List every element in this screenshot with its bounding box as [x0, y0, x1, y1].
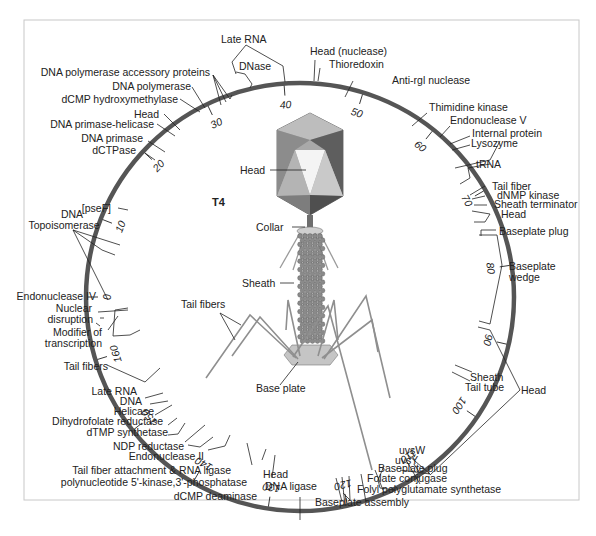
gene-label: DNA polymerase accessory proteins [41, 66, 210, 78]
sheath-bead [305, 313, 310, 318]
sheath-bead [315, 330, 320, 335]
phage-head [277, 113, 343, 215]
sheath-bead [320, 246, 325, 251]
sheath-bead [308, 234, 313, 239]
sheath-bead [308, 301, 313, 306]
sheath-bead [313, 250, 318, 255]
sheath-bead [305, 246, 310, 251]
sheath-bead [305, 263, 310, 268]
sheath-bead [315, 288, 320, 293]
sheath-bead [313, 301, 318, 306]
phage-sheath [298, 234, 325, 344]
sheath-bead [315, 271, 320, 276]
sheath-bead [300, 246, 305, 251]
sheath-bead [320, 280, 325, 285]
sheath-bead [310, 263, 315, 268]
sheath-bead [300, 280, 305, 285]
sheath-bead [318, 309, 323, 314]
sheath-bead [308, 292, 313, 297]
sheath-bead [300, 297, 305, 302]
sheath-bead [315, 263, 320, 268]
gene-label: transcription [45, 337, 102, 349]
sheath-bead [310, 288, 315, 293]
sheath-bead [305, 271, 310, 276]
tick-mark [284, 86, 285, 96]
gene-label: Topoisomerase [28, 219, 99, 231]
gene-label: Endonuclease II [129, 450, 204, 462]
sheath-bead [300, 322, 305, 327]
sheath-bead [303, 326, 308, 331]
sheath-bead [320, 263, 325, 268]
sheath-bead [303, 301, 308, 306]
sheath-bead [315, 246, 320, 251]
sheath-bead [315, 339, 320, 344]
sheath-bead [298, 318, 303, 323]
sheath-bead [305, 288, 310, 293]
sheath-bead [310, 246, 315, 251]
sheath-bead [300, 271, 305, 276]
sheath-bead [313, 242, 318, 247]
sheath-bead [298, 267, 303, 272]
sheath-bead [318, 276, 323, 281]
tick-label: 10 [112, 219, 127, 234]
gene-label: Late RNA [221, 33, 267, 45]
gene-label: DNA ligase [265, 480, 317, 492]
sheath-bead [313, 309, 318, 314]
sheath-bead [318, 334, 323, 339]
sheath-bead [305, 280, 310, 285]
tick-mark [497, 342, 507, 344]
phage-label-base-plate: Base plate [256, 382, 306, 394]
tick-label: 50 [350, 105, 365, 120]
sheath-bead [320, 238, 325, 243]
sheath-bead [305, 322, 310, 327]
sheath-bead [305, 255, 310, 260]
sheath-bead [315, 238, 320, 243]
gene-label: Tail fiber attachment & RNA ligase [72, 464, 231, 476]
sheath-bead [318, 292, 323, 297]
gene-label: dTMP synthetase [86, 426, 168, 438]
sheath-bead [318, 284, 323, 289]
tick-mark [103, 220, 112, 224]
sheath-bead [318, 259, 323, 264]
gene-label: dCMP deaminase [174, 490, 257, 502]
sheath-bead [303, 318, 308, 323]
tick-label: 30 [208, 115, 224, 131]
sheath-bead [308, 242, 313, 247]
sheath-bead [298, 284, 303, 289]
gene-label: Head [521, 384, 546, 396]
gene-label: Endonuclease V [450, 114, 526, 126]
gene-label: Tail fibers [64, 360, 108, 372]
sheath-bead [298, 242, 303, 247]
sheath-bead [313, 334, 318, 339]
sheath-bead [300, 238, 305, 243]
sheath-bead [320, 271, 325, 276]
tick-label: 100 [450, 395, 470, 416]
sheath-bead [313, 259, 318, 264]
sheath-bead [300, 288, 305, 293]
gene-label: disruption [47, 313, 93, 325]
gene-label: Tail fiber [492, 180, 532, 192]
sheath-bead [318, 242, 323, 247]
gene-label: Thioredoxin [329, 58, 384, 70]
gene-label: Internal protein [472, 127, 542, 139]
sheath-bead [298, 276, 303, 281]
sheath-bead [300, 263, 305, 268]
tick-mark [475, 191, 484, 196]
phage-label-head: Head [240, 164, 265, 176]
tick-label: 70 [459, 192, 475, 208]
sheath-bead [320, 255, 325, 260]
sheath-bead [303, 267, 308, 272]
sheath-bead [310, 238, 315, 243]
phage-label-collar: Collar [256, 221, 284, 233]
sheath-bead [303, 309, 308, 314]
phage-label-sheath: Sheath [242, 277, 275, 289]
tick-label: 160 [107, 344, 124, 364]
sheath-bead [310, 305, 315, 310]
sheath-bead [298, 301, 303, 306]
sheath-bead [310, 280, 315, 285]
sheath-bead [300, 255, 305, 260]
tick-label: 90 [481, 333, 495, 347]
sheath-bead [320, 288, 325, 293]
sheath-bead [303, 284, 308, 289]
sheath-bead [298, 234, 303, 239]
